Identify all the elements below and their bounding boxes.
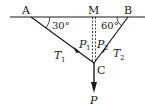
label-t1: T 1: [54, 49, 65, 64]
force-diagram: A M B C 30° 60° T 1 T 2 P 1 P 2 P: [0, 0, 145, 112]
label-p: P: [89, 94, 98, 107]
angle-arc-30: [46, 17, 50, 28]
label-b: B: [124, 4, 132, 17]
svg-text:2: 2: [120, 54, 124, 62]
svg-text:1: 1: [86, 44, 90, 52]
label-p1: P 1: [78, 38, 90, 52]
label-a: A: [21, 4, 31, 17]
angle-60-label: 60°: [101, 20, 119, 31]
label-p2: P 2: [96, 38, 108, 52]
label-m: M: [88, 4, 99, 17]
label-t2: T 2: [113, 47, 124, 62]
label-c: C: [97, 64, 105, 77]
svg-text:1: 1: [61, 56, 65, 64]
angle-30-label: 30°: [52, 20, 70, 31]
svg-text:2: 2: [104, 44, 108, 52]
force-p-arrowhead: [91, 82, 97, 93]
